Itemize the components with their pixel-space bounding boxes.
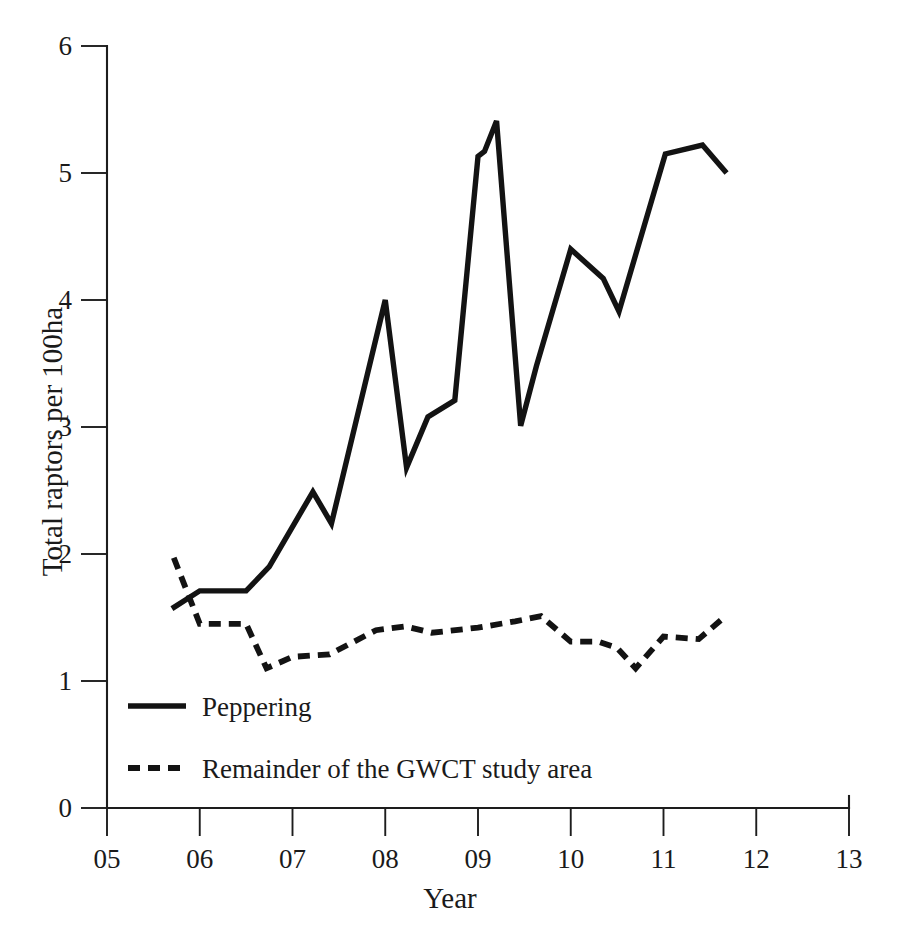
y-tick-marks: [81, 46, 107, 808]
x-tick-label: 06: [186, 846, 213, 873]
x-tick-label: 08: [372, 846, 399, 873]
x-tick-marks: [107, 808, 849, 836]
x-tick-label: 11: [651, 846, 677, 873]
x-tick-label: 12: [743, 846, 770, 873]
raptor-density-line-chart: 0123456 050607080910111213 Total raptors…: [0, 0, 900, 943]
chart-plot-area: [0, 0, 900, 943]
series-line-peppering: [172, 121, 727, 609]
y-tick-label: 5: [26, 160, 72, 187]
legend-label-remainder: Remainder of the GWCT study area: [202, 754, 592, 785]
y-tick-label: 1: [26, 668, 72, 695]
y-axis-title: Total raptors per 100ha: [36, 232, 69, 652]
series-line-remainder: [174, 558, 721, 668]
x-tick-label: 09: [465, 846, 492, 873]
y-tick-label: 6: [26, 33, 72, 60]
x-tick-label: 05: [94, 846, 121, 873]
x-axis-title: Year: [0, 882, 900, 915]
x-tick-label: 13: [836, 846, 863, 873]
figure-caption: [36, 928, 876, 943]
x-tick-label: 07: [279, 846, 306, 873]
legend-label-peppering: Peppering: [202, 692, 311, 723]
y-tick-label: 0: [26, 795, 72, 822]
x-tick-label: 10: [557, 846, 584, 873]
